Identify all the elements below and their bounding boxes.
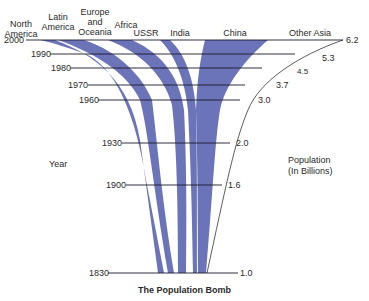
label-other-asia: Other Asia [282,28,338,38]
label-line: Latin [40,12,76,22]
population-axis-title: Population (In Billions) [288,155,333,177]
year-1900: 1900 [106,180,126,190]
label-china: China [220,28,250,38]
year-1970: 1970 [68,80,88,90]
pop-1-0: 1.0 [240,268,253,278]
label-latin-america: Latin America [40,12,76,32]
label-line: Other Asia [282,28,338,38]
population-bomb-diagram [0,0,369,301]
label-line: China [220,28,250,38]
pop-5-3: 5.3 [322,53,335,63]
pop-1-6: 1.6 [228,180,241,190]
pop-3-7: 3.7 [276,80,289,90]
label-line: USSR [132,28,160,38]
year-axis-title: Year [49,159,67,170]
label-europe-oceania: Europe and Oceania [76,7,114,37]
year-2000: 2000 [4,35,24,45]
pop-3-0: 3.0 [258,95,271,105]
label-line: India [166,28,194,38]
pop-6-2: 6.2 [346,35,359,45]
label-ussr: USSR [132,28,160,38]
label-line: America [40,22,76,32]
band-china [196,40,268,273]
pop-2-0: 2.0 [236,138,249,148]
year-1980: 1980 [51,63,71,73]
label-india: India [166,28,194,38]
label-line: North [2,19,40,29]
year-1990: 1990 [31,49,51,59]
pop-4-5: 4.5 [297,67,308,76]
year-1930: 1930 [102,138,122,148]
axis-title-line: Population [288,155,333,166]
year-1960: 1960 [79,95,99,105]
label-line: Europe [76,7,114,17]
label-line: Oceania [76,27,114,37]
axis-title-line: (In Billions) [288,166,333,177]
year-1830: 1830 [89,268,109,278]
label-line: and [76,17,114,27]
caption: The Population Bomb [138,285,231,295]
